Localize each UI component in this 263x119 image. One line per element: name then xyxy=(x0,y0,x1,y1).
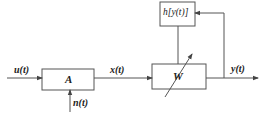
signal-label-y: y(t) xyxy=(231,64,245,74)
signal-label-x: x(t) xyxy=(110,65,124,75)
block-diagram: A W h[y(t)] u(t) n(t) x(t) y(t) xyxy=(0,0,263,119)
block-w-label: W xyxy=(173,71,183,82)
block-h-label: h[y(t)] xyxy=(163,8,188,18)
signal-label-u: u(t) xyxy=(14,65,29,75)
block-a-label: A xyxy=(65,74,72,85)
signal-label-n: n(t) xyxy=(73,98,88,108)
diagram-svg xyxy=(0,0,263,119)
